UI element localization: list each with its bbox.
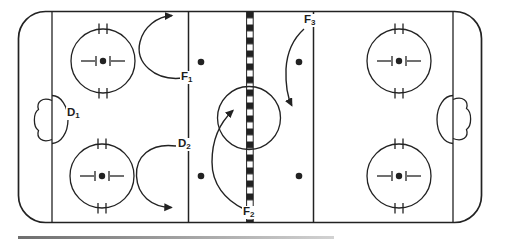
label-f2-main: F <box>243 205 250 217</box>
rink-lines <box>19 12 482 223</box>
f2-path-arrow <box>212 111 244 210</box>
faceoff-dot <box>100 58 106 64</box>
f3-path-arrow <box>286 29 304 106</box>
goal-net-right <box>453 98 471 140</box>
goal-crease-right <box>437 96 453 144</box>
neutral-dot <box>198 59 205 66</box>
figure-underline <box>18 236 334 239</box>
faceoff-dot <box>396 58 402 64</box>
label-f3-sub: 3 <box>311 18 315 27</box>
label-d1: D1 <box>66 107 81 120</box>
label-f3: F3 <box>303 14 316 27</box>
neutral-dot <box>296 173 303 180</box>
label-d2-sub: 2 <box>186 142 190 151</box>
skating-path-arrows <box>136 16 304 210</box>
label-f1: F1 <box>180 71 193 84</box>
label-f1-sub: 1 <box>188 75 192 84</box>
label-f1-main: F <box>181 70 188 82</box>
label-f2-sub: 2 <box>250 210 254 219</box>
label-f3-main: F <box>304 13 311 25</box>
faceoff-circle-top-left <box>71 24 135 99</box>
center-red-line <box>247 12 254 223</box>
faceoff-dot <box>396 173 402 179</box>
faceoff-dot <box>99 173 105 179</box>
neutral-dot <box>198 173 205 180</box>
goal-net-left <box>34 99 52 141</box>
faceoff-circle-bottom-left <box>70 139 134 214</box>
hockey-rink-drill-diagram: D1 F1 D2 F2 F3 <box>0 0 505 242</box>
label-d1-sub: 1 <box>75 111 79 120</box>
d2-path-arrow <box>136 145 176 207</box>
faceoff-circle-top-right <box>367 24 431 99</box>
f1-path-arrow <box>139 16 183 79</box>
faceoff-circle-bottom-right <box>367 139 431 214</box>
label-f2: F2 <box>242 206 255 219</box>
neutral-dot <box>296 59 303 66</box>
label-d2: D2 <box>177 138 192 151</box>
